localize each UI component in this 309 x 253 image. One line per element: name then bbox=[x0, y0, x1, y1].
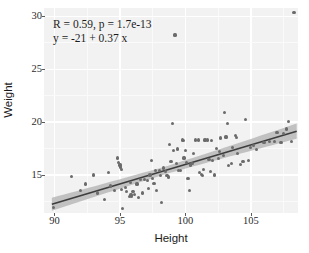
data-point bbox=[192, 152, 195, 155]
data-point bbox=[186, 177, 189, 180]
data-point bbox=[201, 174, 204, 177]
data-point bbox=[222, 154, 225, 157]
data-point bbox=[137, 196, 140, 199]
data-point bbox=[244, 118, 247, 121]
data-point bbox=[241, 160, 244, 163]
data-point bbox=[113, 189, 116, 192]
y-tick-mark bbox=[42, 16, 45, 17]
data-point bbox=[226, 122, 229, 125]
y-tick-mark bbox=[42, 122, 45, 123]
data-point bbox=[210, 139, 213, 142]
data-point bbox=[116, 156, 119, 159]
y-tick-mark bbox=[42, 175, 45, 176]
data-point bbox=[168, 143, 171, 146]
data-point bbox=[92, 173, 95, 176]
data-point bbox=[103, 198, 106, 201]
data-point bbox=[279, 141, 282, 144]
data-point bbox=[207, 158, 210, 161]
data-point bbox=[70, 175, 73, 178]
data-point bbox=[184, 149, 187, 152]
data-point bbox=[252, 144, 255, 147]
y-tick-text: 30 bbox=[16, 10, 42, 21]
data-point bbox=[147, 187, 150, 190]
plot-panel: R = 0.59, p = 1.7e-13 y = -21 + 0.37 x bbox=[44, 8, 298, 213]
y-tick-label-30: 30 bbox=[12, 10, 42, 22]
data-point bbox=[139, 178, 142, 181]
data-point bbox=[155, 189, 158, 192]
x-axis-title: Height bbox=[44, 232, 298, 244]
data-point bbox=[273, 140, 276, 143]
data-point bbox=[217, 157, 220, 160]
data-point bbox=[213, 173, 216, 176]
y-tick-text: 15 bbox=[16, 169, 42, 180]
data-point bbox=[211, 159, 214, 162]
data-point bbox=[179, 169, 182, 172]
data-point bbox=[202, 168, 205, 171]
data-point bbox=[175, 162, 178, 165]
x-tick-text: 100 bbox=[170, 215, 200, 226]
data-point bbox=[129, 181, 132, 184]
data-point bbox=[162, 166, 165, 169]
data-point bbox=[167, 175, 170, 178]
data-point bbox=[146, 179, 149, 182]
data-point bbox=[172, 149, 175, 152]
x-tick-text: 90 bbox=[39, 215, 69, 226]
x-tick-label-105: 105 bbox=[236, 215, 266, 228]
data-point bbox=[152, 182, 155, 185]
data-point bbox=[150, 159, 153, 162]
data-point bbox=[169, 160, 172, 163]
data-point bbox=[262, 141, 265, 144]
x-tick-mark bbox=[185, 213, 186, 216]
x-tick-label-90: 90 bbox=[39, 215, 69, 228]
data-point bbox=[96, 191, 99, 194]
data-point bbox=[154, 169, 157, 172]
data-point bbox=[120, 168, 123, 171]
data-point bbox=[282, 132, 285, 135]
x-tick-label-95: 95 bbox=[105, 215, 135, 228]
data-point bbox=[135, 182, 138, 185]
data-point bbox=[268, 140, 271, 143]
data-point bbox=[121, 207, 124, 210]
data-point bbox=[287, 120, 290, 123]
data-point bbox=[223, 111, 226, 114]
data-point bbox=[185, 161, 188, 164]
x-tick-mark bbox=[251, 213, 252, 216]
data-point bbox=[141, 191, 144, 194]
data-point bbox=[120, 188, 123, 191]
data-point bbox=[160, 201, 163, 204]
data-point bbox=[231, 146, 234, 149]
data-point bbox=[235, 136, 238, 139]
stats-annotation: R = 0.59, p = 1.7e-13 y = -21 + 0.37 x bbox=[53, 17, 152, 46]
data-point bbox=[109, 184, 112, 187]
x-tick-text: 95 bbox=[105, 215, 135, 226]
data-point bbox=[209, 170, 212, 173]
x-tick-text: 105 bbox=[236, 215, 266, 226]
data-point bbox=[219, 136, 222, 139]
data-point bbox=[218, 150, 221, 153]
y-tick-text: 25 bbox=[16, 63, 42, 74]
data-point bbox=[164, 170, 167, 173]
data-point bbox=[124, 186, 127, 189]
data-point bbox=[125, 190, 128, 193]
data-point bbox=[255, 148, 258, 151]
data-point bbox=[159, 174, 162, 177]
data-point bbox=[173, 33, 176, 36]
data-point bbox=[247, 159, 250, 162]
data-point bbox=[171, 122, 174, 125]
y-tick-label-15: 15 bbox=[12, 169, 42, 181]
annotation-line-correlation: R = 0.59, p = 1.7e-13 bbox=[53, 17, 152, 31]
data-point bbox=[292, 11, 295, 14]
data-point bbox=[190, 162, 193, 165]
data-point bbox=[133, 193, 136, 196]
data-point bbox=[230, 162, 233, 165]
x-tick-label-100: 100 bbox=[170, 215, 200, 228]
data-point bbox=[84, 182, 87, 185]
data-point bbox=[285, 127, 288, 130]
data-point bbox=[224, 135, 227, 138]
data-point bbox=[52, 206, 55, 209]
scatter-plot-figure: R = 0.59, p = 1.7e-13 y = -21 + 0.37 x 1… bbox=[0, 0, 309, 253]
data-point bbox=[158, 169, 161, 172]
y-tick-mark bbox=[42, 69, 45, 70]
data-point bbox=[275, 131, 278, 134]
data-point bbox=[107, 171, 110, 174]
